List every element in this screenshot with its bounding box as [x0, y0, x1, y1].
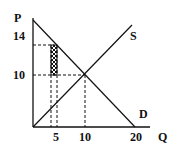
x-axis-label: Q	[158, 130, 167, 144]
supply-label: S	[130, 29, 137, 43]
demand-label: D	[139, 107, 148, 121]
x-tick-5: 5	[53, 130, 59, 144]
supply-curve	[33, 25, 132, 127]
y-tick-10: 10	[13, 68, 25, 82]
x-tick-20: 20	[130, 130, 142, 144]
supply-demand-diagram: P 14 10 5 10 20 Q S D	[0, 0, 179, 150]
x-tick-10: 10	[79, 130, 91, 144]
shaded-region	[51, 45, 57, 75]
y-tick-14: 14	[13, 29, 25, 43]
y-axis-label: P	[14, 11, 21, 25]
